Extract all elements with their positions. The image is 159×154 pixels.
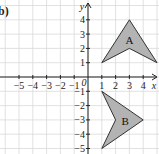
y-tick-label: −5 xyxy=(74,143,85,154)
x-tick-label: −5 xyxy=(14,80,25,91)
x-tick-label: 2 xyxy=(113,80,118,91)
shape-label-a: A xyxy=(125,34,133,46)
coordinate-plane: AB−5−4−3−2−112344321−1−2−3−4−50xy xyxy=(0,0,159,154)
y-tick-label: 2 xyxy=(80,43,85,54)
x-axis-label: x xyxy=(151,80,157,91)
y-tick-label: 4 xyxy=(80,14,85,25)
x-tick-label: 1 xyxy=(99,80,104,91)
x-tick-label: 4 xyxy=(141,80,146,91)
y-tick-label: 1 xyxy=(80,57,85,68)
y-tick-label: −3 xyxy=(74,114,85,125)
x-tick-label: 3 xyxy=(127,80,132,91)
coordinate-diagram: b) AB−5−4−3−2−112344321−1−2−3−4−50xy xyxy=(0,0,159,154)
y-tick-label: 3 xyxy=(80,29,85,40)
x-tick-label: −2 xyxy=(55,80,66,91)
shape-label-b: B xyxy=(122,115,129,127)
y-tick-label: −2 xyxy=(74,100,85,111)
origin-label: 0 xyxy=(82,77,87,88)
y-axis-label: y xyxy=(79,1,85,12)
x-tick-label: −3 xyxy=(41,80,52,91)
x-tick-label: −4 xyxy=(27,80,38,91)
y-tick-label: −4 xyxy=(74,129,85,140)
